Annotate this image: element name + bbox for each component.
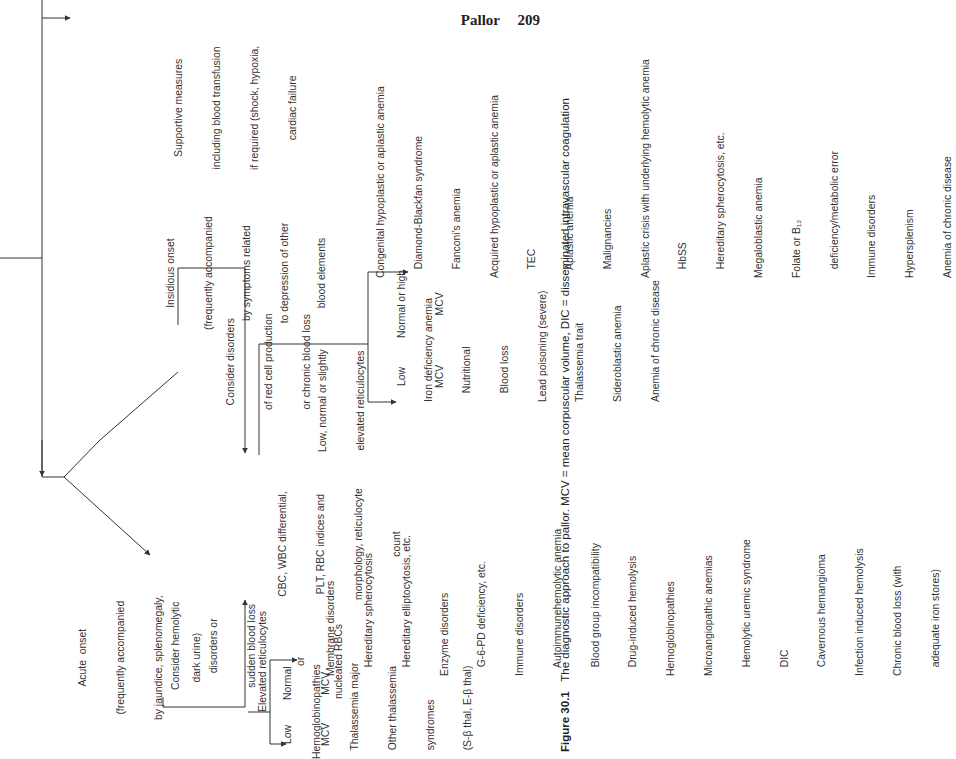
figure-label: Figure 30.1 [559, 691, 571, 752]
hemoglobinopathies-list: Hemoglobinopathies Thalassemia major Oth… [286, 663, 488, 759]
figure-caption: Figure 30.1 The diagnostic approach to p… [530, 98, 586, 752]
hemolytic-causes-list: Membrane disorders Hereditary spherocyto… [300, 529, 955, 676]
normo-macrocytic-causes-list: Congenital hypoplastic or aplastic anemi… [350, 59, 956, 278]
figure-caption-text: The diagnostic approach to pallor. MCV =… [559, 98, 571, 682]
low-normal-retic-label: Low, normal or slightly elevated reticul… [292, 349, 380, 452]
supportive-measures-node: Supportive measures including blood tran… [148, 46, 312, 170]
